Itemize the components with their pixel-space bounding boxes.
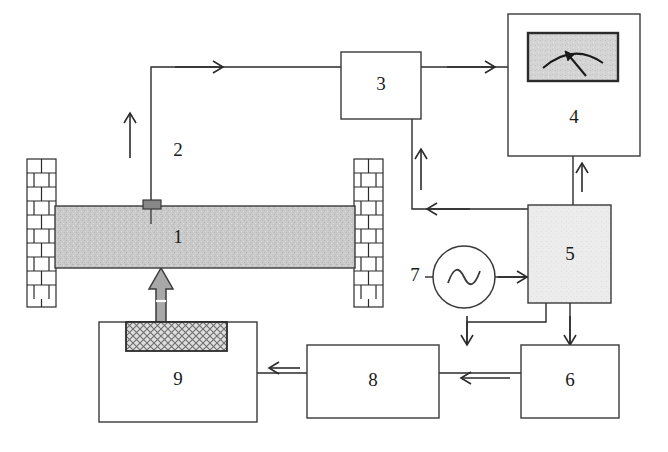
flow-arrow-amp-to-meter-icon [447, 61, 495, 73]
flow-arrow-unit5-to-unit6-icon [564, 316, 576, 345]
hatched-actuator-block [126, 322, 227, 351]
flow-arrow-amp-down-riser-icon [415, 149, 427, 190]
label-component-4: 4 [569, 106, 579, 127]
flow-arrow-unit5-to-meter-icon [576, 163, 588, 192]
flow-arrow-osc-to-unit5-icon [498, 271, 527, 283]
flow-arrow-unit6-to-unit8-icon [461, 372, 510, 384]
label-component-6: 6 [565, 369, 575, 390]
wire-sensor-to-unit3 [151, 67, 341, 208]
beam-specimen [55, 206, 355, 268]
meter-gauge-face [528, 33, 618, 81]
brick-wall-support-right [354, 159, 383, 307]
label-component-5: 5 [565, 243, 575, 264]
excitation-force-arrow [149, 268, 173, 324]
diagram-canvas: 1 2 3 4 5 6 7 8 9 [0, 0, 668, 452]
label-component-3: 3 [376, 73, 386, 94]
schematic-diagram: 1 2 3 4 5 6 7 8 9 [0, 0, 668, 452]
signal-generator-oscillator[interactable] [433, 246, 495, 308]
label-component-8: 8 [368, 369, 378, 390]
wire-unit5-to-unit8 [467, 303, 546, 345]
label-component-2: 2 [173, 139, 183, 160]
label-component-1: 1 [173, 226, 183, 247]
label-component-7: 7 [410, 264, 420, 285]
flow-arrow-unit8-to-unit9-icon [269, 362, 300, 374]
flow-arrow-sensor-to-amp-icon [175, 61, 223, 73]
brick-wall-support-left [27, 159, 56, 307]
accelerometer-sensor [143, 200, 161, 209]
flow-arrow-unit5-to-amp8-icon [461, 316, 473, 345]
flow-arrow-unit5-feedback-left-icon [427, 203, 470, 215]
flow-arrow-cable-up-icon [124, 113, 136, 158]
label-component-9: 9 [173, 368, 183, 389]
